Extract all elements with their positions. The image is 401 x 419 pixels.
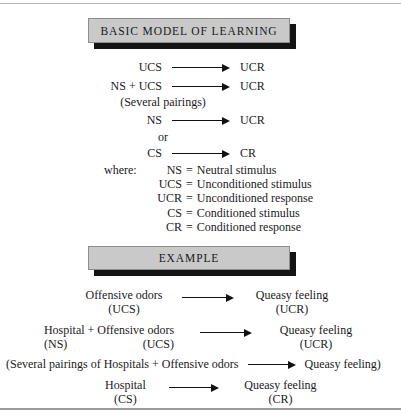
page-rule-top — [0, 3, 401, 4]
banner-example: EXAMPLE — [88, 246, 290, 270]
example-row-1-left-code: (UCS) — [78, 302, 170, 316]
arrow-right-icon — [172, 63, 230, 72]
example-row-3-prefix: (Several pairings of Hospitals + Offensi… — [6, 357, 239, 372]
legend-entries: NS = Neutral stimulus UCS = Unconditione… — [152, 163, 313, 234]
legend-abbr: CR — [152, 220, 182, 234]
legend-equals: = — [182, 220, 197, 234]
arrow-right-icon — [200, 328, 252, 337]
example-row-2-left-term-b: Offensive odors — [97, 323, 174, 337]
model-row-ns-ucs-ucr: NS + UCS UCR — [88, 79, 288, 94]
legend-equals: = — [182, 177, 197, 191]
legend-equals: = — [182, 206, 197, 220]
legend-abbr: UCR — [152, 191, 182, 205]
model-several-pairings: (Several pairings) — [88, 95, 238, 110]
example-row-1-right: Queasy feeling (UCR) — [246, 288, 338, 316]
example-row-2: Hospital + Offensive odors (NS) (UCS) Qu… — [28, 323, 378, 351]
arrow-right-icon — [172, 149, 230, 158]
example-row-2-right-term: Queasy feeling — [262, 323, 370, 337]
example-row-2-left-term-a: Hospital — [44, 323, 85, 337]
model-row-3-left: NS — [88, 113, 162, 128]
example-row-2-left-code-b: (UCS) — [143, 337, 174, 351]
legend-entry-cs: CS = Conditioned stimulus — [152, 206, 313, 220]
model-row-3-right: UCR — [240, 113, 265, 128]
example-row-1-right-term: Queasy feeling — [246, 288, 338, 302]
example-row-1: Offensive odors (UCS) Queasy feeling (UC… — [78, 288, 338, 316]
model-row-4-left: CS — [88, 146, 162, 161]
example-row-2-left-plus: + — [88, 323, 95, 337]
example-row-2-left-terms: Hospital + Offensive odors — [28, 323, 190, 337]
model-row-cs-cr: CS CR — [88, 146, 288, 161]
example-row-4-left-term: Hospital — [92, 378, 159, 392]
legend-where-label: where: — [104, 163, 137, 177]
model-row-4-right: CR — [240, 146, 256, 161]
legend-definition: Neutral stimulus — [197, 163, 277, 177]
model-row-1-right: UCR — [240, 60, 265, 75]
page-rule-bottom — [0, 408, 401, 410]
model-row-1-left: UCS — [88, 60, 162, 75]
example-row-2-left-code-a: (NS) — [44, 337, 67, 351]
model-row-2-left: NS + UCS — [88, 79, 162, 94]
legend-abbr: CS — [152, 206, 182, 220]
example-row-3: (Several pairings of Hospitals + Offensi… — [6, 357, 398, 372]
arrow-right-icon — [248, 360, 296, 369]
example-row-4-right: Queasy feeling (CR) — [229, 378, 332, 406]
arrow-right-icon — [169, 383, 219, 392]
legend-definition: Unconditioned response — [197, 191, 313, 205]
example-row-4-left: Hospital (CS) — [92, 378, 159, 406]
legend-equals: = — [182, 163, 197, 177]
model-row-ns-ucr: NS UCR — [88, 113, 288, 128]
example-row-2-left: Hospital + Offensive odors (NS) (UCS) — [28, 323, 190, 351]
example-row-4-right-term: Queasy feeling — [229, 378, 332, 392]
legend: where: NS = Neutral stimulus UCS = Uncon… — [104, 163, 313, 234]
legend-abbr: NS — [152, 163, 182, 177]
arrow-right-icon — [182, 293, 234, 302]
example-row-1-left-term: Offensive odors — [78, 288, 170, 302]
banner-basic-model-label: BASIC MODEL OF LEARNING — [100, 25, 277, 37]
arrow-right-icon — [172, 116, 230, 125]
legend-entry-cr: CR = Conditioned response — [152, 220, 313, 234]
legend-definition: Conditioned stimulus — [197, 206, 300, 220]
example-row-2-left-codes: (NS) (UCS) — [28, 337, 190, 351]
example-row-1-right-code: (UCR) — [246, 302, 338, 316]
legend-equals: = — [182, 191, 197, 205]
banner-example-label: EXAMPLE — [159, 252, 220, 264]
legend-entry-ucs: UCS = Unconditioned stimulus — [152, 177, 313, 191]
example-row-2-right: Queasy feeling (UCR) — [262, 323, 370, 351]
legend-entry-ns: NS = Neutral stimulus — [152, 163, 313, 177]
example-row-4: Hospital (CS) Queasy feeling (CR) — [92, 378, 332, 406]
example-row-4-right-code: (CR) — [229, 392, 332, 406]
arrow-right-icon — [172, 82, 230, 91]
legend-definition: Conditioned response — [197, 220, 301, 234]
legend-entry-ucr: UCR = Unconditioned response — [152, 191, 313, 205]
example-row-2-right-code: (UCR) — [262, 337, 370, 351]
model-or-label: or — [88, 130, 238, 145]
example-row-4-left-code: (CS) — [92, 392, 159, 406]
example-row-1-left: Offensive odors (UCS) — [78, 288, 170, 316]
legend-definition: Unconditioned stimulus — [197, 177, 312, 191]
model-row-ucs-ucr: UCS UCR — [88, 60, 288, 75]
legend-abbr: UCS — [152, 177, 182, 191]
model-row-2-right: UCR — [240, 79, 265, 94]
example-row-3-suffix: Queasy feeling) — [305, 357, 381, 372]
banner-basic-model: BASIC MODEL OF LEARNING — [88, 18, 290, 43]
